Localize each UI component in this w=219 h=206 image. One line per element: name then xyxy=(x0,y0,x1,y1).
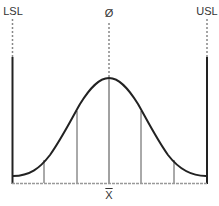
lsl-label: LSL xyxy=(3,6,23,17)
normal-distribution-diagram xyxy=(0,0,219,206)
usl-label: USL xyxy=(196,6,217,17)
mean-label: X xyxy=(105,190,112,201)
target-label: Ø xyxy=(105,8,114,19)
